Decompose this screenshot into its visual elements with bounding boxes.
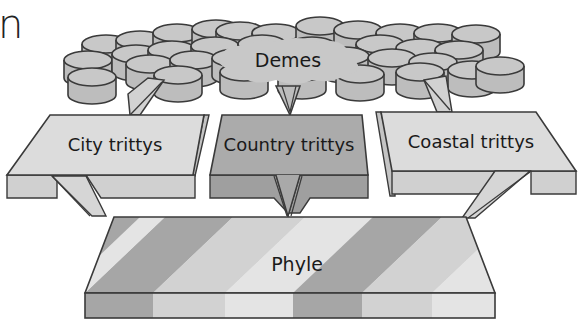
trittys-phyle-diagram: Demes City trittys Country trittys [0, 0, 583, 323]
city-trittys-block [7, 115, 209, 216]
city-trittys-label: City trittys [68, 134, 163, 155]
country-trittys-block [210, 115, 368, 216]
country-trittys-label: Country trittys [224, 134, 355, 155]
phyle-label: Phyle [271, 253, 323, 275]
connector-demes-country [276, 86, 300, 115]
demes-label: Demes [255, 49, 321, 71]
coastal-trittys-block [376, 112, 576, 218]
coastal-trittys-label: Coastal trittys [408, 131, 534, 152]
